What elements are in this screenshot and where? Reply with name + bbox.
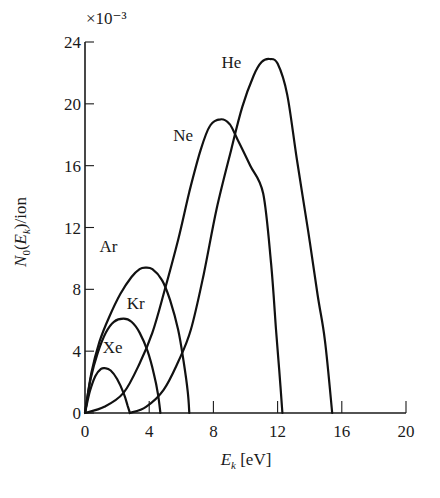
label-he: He: [221, 53, 241, 72]
y-axis-multiplier: ×10⁻³: [86, 9, 127, 28]
series-labels: HeNeArKrXe: [99, 53, 241, 356]
x-tick-label: 8: [209, 422, 218, 441]
x-tick-label: 12: [269, 422, 286, 441]
y-tick-label: 12: [64, 219, 81, 238]
x-tick-label: 0: [81, 422, 90, 441]
label-ar: Ar: [99, 237, 117, 256]
y-axis-label: N0(Ek)/ion: [11, 197, 32, 268]
x-axis-label: Ek [eV]: [220, 450, 272, 471]
energy-distribution-chart: ×10⁻³ 04812162024 048121620 N0(Ek)/ion E…: [0, 0, 440, 498]
x-ticks: 048121620: [81, 401, 415, 441]
y-tick-label: 16: [64, 157, 81, 176]
y-ticks: 04812162024: [64, 33, 94, 423]
label-kr: Kr: [127, 294, 145, 313]
label-ne: Ne: [173, 126, 193, 145]
x-tick-label: 16: [333, 422, 350, 441]
series-curves: [85, 59, 332, 413]
y-tick-label: 20: [64, 95, 81, 114]
curve-he: [130, 59, 332, 413]
curve-kr: [85, 319, 160, 413]
y-tick-label: 24: [64, 33, 82, 52]
x-tick-label: 4: [145, 422, 154, 441]
y-tick-label: 8: [73, 280, 82, 299]
label-xe: Xe: [103, 338, 123, 357]
y-tick-label: 0: [73, 404, 82, 423]
y-tick-label: 4: [73, 342, 82, 361]
curve-ar: [85, 268, 189, 413]
svg-text:Ek [eV]: Ek [eV]: [220, 450, 272, 471]
svg-text:N0(Ek)/ion: N0(Ek)/ion: [11, 197, 32, 268]
x-tick-label: 20: [398, 422, 415, 441]
